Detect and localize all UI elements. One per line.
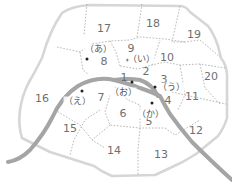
arrondissement-label: 17 (97, 23, 111, 34)
arrondissement-label: 8 (101, 56, 108, 67)
location-dot-icon (154, 86, 157, 89)
arrondissement-label: 4 (165, 95, 172, 106)
location-marker-label: （う） (158, 83, 185, 92)
location-marker-label: （え） (64, 97, 91, 106)
arrondissement-label: 10 (160, 52, 174, 63)
arrondissement-label: 11 (185, 91, 199, 102)
location-marker-label: （お） (110, 88, 137, 97)
location-marker-label: （あ） (85, 45, 112, 54)
arrondissement-label: 13 (154, 149, 168, 160)
location-marker-label: （い） (128, 55, 155, 64)
arrondissement-label: 18 (146, 18, 160, 29)
arrondissement-label: 6 (120, 108, 127, 119)
arrondissement-label: 15 (63, 123, 77, 134)
arrondissement-label: 12 (189, 125, 203, 136)
arrondissement-label: 19 (187, 29, 201, 40)
arrondissement-label: 9 (128, 43, 135, 54)
location-dot-icon (151, 102, 154, 105)
arrondissement-label: 2 (143, 66, 150, 77)
arrondissement-label: 20 (204, 71, 218, 82)
arrondissement-label: 7 (98, 92, 105, 103)
location-dot-icon (86, 58, 89, 61)
location-dot-icon (81, 90, 84, 93)
arrondissement-label: 14 (107, 145, 121, 156)
arrondissement-label: 16 (35, 93, 49, 104)
arrondissement-label: 1 (121, 72, 128, 83)
location-marker-label: （か） (137, 110, 164, 119)
location-dot-icon (131, 81, 134, 84)
